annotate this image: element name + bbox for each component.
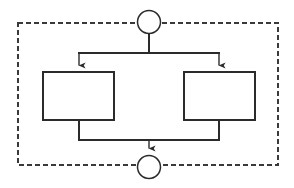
left-activity-box[interactable] xyxy=(43,72,114,120)
right-activity-box[interactable] xyxy=(184,72,255,120)
end-node[interactable] xyxy=(138,156,161,179)
diagram-canvas xyxy=(0,0,294,188)
start-node[interactable] xyxy=(138,11,161,34)
flowchart-diagram xyxy=(0,0,294,188)
